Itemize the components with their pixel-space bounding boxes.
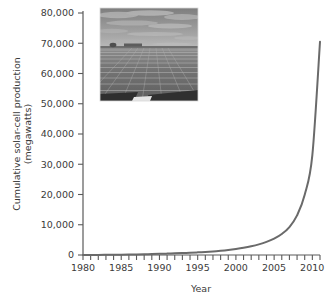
x-tick-label: 2010 [300, 262, 324, 273]
photo-horizon-tree [110, 43, 117, 47]
y-axis-title-line1: Cumulative solar-cell production [11, 57, 22, 211]
y-tick-label: 10,000 [41, 219, 74, 230]
y-tick-label: 80,000 [41, 7, 74, 18]
y-tick-label: 30,000 [41, 159, 74, 170]
y-axis-tick-labels: 0 10,000 20,000 30,000 40,000 50,000 60,… [41, 7, 74, 260]
x-tick-label: 2005 [262, 262, 286, 273]
x-tick-label: 1985 [109, 262, 133, 273]
y-tick-label: 50,000 [41, 98, 74, 109]
chart-svg: 0 10,000 20,000 30,000 40,000 50,000 60,… [0, 0, 335, 302]
x-tick-label: 1990 [147, 262, 171, 273]
photo-horizon-building [124, 44, 142, 47]
y-tick-label: 0 [68, 249, 74, 260]
solar-panel-farm-photo [82, 8, 202, 101]
x-tick-label: 1980 [71, 262, 95, 273]
solar-production-figure: 0 10,000 20,000 30,000 40,000 50,000 60,… [0, 0, 335, 302]
y-tick-label: 60,000 [41, 68, 74, 79]
y-tick-label: 70,000 [41, 38, 74, 49]
y-axis-title-line2: (megawatts) [22, 104, 33, 164]
x-axis-title: Year [190, 283, 211, 294]
y-tick-label: 40,000 [41, 128, 74, 139]
x-tick-label: 1995 [186, 262, 210, 273]
y-tick-label: 20,000 [41, 189, 74, 200]
x-tick-label: 2000 [224, 262, 248, 273]
